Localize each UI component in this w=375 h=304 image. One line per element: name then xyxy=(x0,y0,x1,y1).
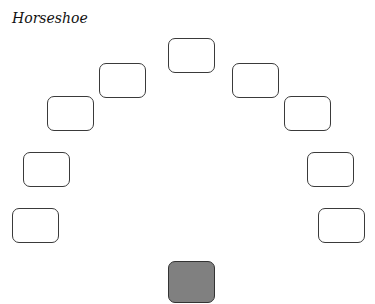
student-desk-right-1 xyxy=(232,63,279,98)
layout-title: Horseshoe xyxy=(12,10,88,26)
student-desk-right-2 xyxy=(284,96,331,131)
student-desk-left-2 xyxy=(47,96,94,131)
student-desk-left-4 xyxy=(12,208,59,243)
teacher-desk xyxy=(168,261,215,303)
student-desk-left-1 xyxy=(99,63,146,98)
student-desk-right-4 xyxy=(318,208,365,243)
student-desk-top xyxy=(168,38,215,73)
student-desk-right-3 xyxy=(307,152,354,187)
student-desk-left-3 xyxy=(23,152,70,187)
